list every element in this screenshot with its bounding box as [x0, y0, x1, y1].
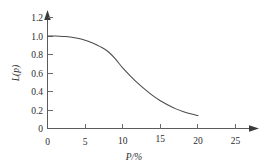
- y-tick-label: 0.4: [31, 87, 43, 97]
- y-tick-label: 0: [38, 124, 43, 134]
- line-chart-plot: 1.2 1.0 0.8 0.6 0.4 0.2 0 0 5 10 15 20 2…: [0, 0, 265, 167]
- x-tick-label: 5: [83, 137, 88, 147]
- y-axis-title: L(p): [11, 65, 22, 82]
- chart-background: [0, 0, 265, 167]
- y-tick-label: 0.2: [31, 106, 43, 116]
- y-tick-label: 0.8: [31, 50, 43, 60]
- x-tick-label: 20: [193, 136, 203, 146]
- x-tick-label: 10: [118, 136, 128, 146]
- y-tick-label: 1.2: [31, 13, 43, 23]
- x-tick-label: 15: [156, 134, 166, 144]
- y-tick-label: 1.0: [31, 32, 43, 42]
- x-axis-title: P/%: [125, 152, 142, 162]
- x-tick-label: 25: [231, 136, 241, 146]
- chart-figure: 1.2 1.0 0.8 0.6 0.4 0.2 0 0 5 10 15 20 2…: [0, 0, 265, 167]
- y-tick-label: 0.6: [31, 69, 43, 79]
- x-tick-label: 0: [45, 137, 50, 147]
